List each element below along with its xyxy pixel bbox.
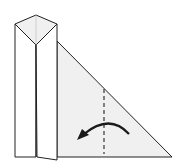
strip-left-panel [15, 24, 36, 157]
strip-right-panel [36, 24, 57, 160]
origami-diagram [0, 0, 184, 168]
triangle-flap [57, 41, 172, 157]
